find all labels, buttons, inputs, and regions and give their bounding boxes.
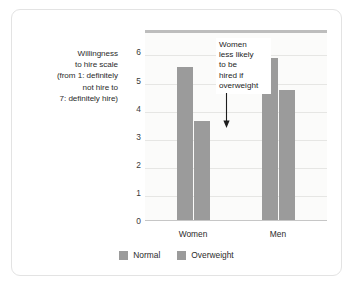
bar-women-normal xyxy=(177,67,193,221)
y-axis-tick-label: 6 xyxy=(132,47,141,57)
annotation-line-3: to be xyxy=(219,60,269,70)
annotation-line-5: overweight xyxy=(219,81,269,91)
legend-label: Normal xyxy=(133,250,160,260)
gridline xyxy=(145,196,327,197)
bar-women-overweight xyxy=(194,121,210,221)
y-axis-label-line-2: to hire scale xyxy=(22,59,118,70)
annotation-line-1: Women xyxy=(219,40,269,50)
legend-swatch-icon xyxy=(119,251,128,260)
legend-swatch-icon xyxy=(177,251,186,260)
plot-area: Women less likely to be hired if overwei… xyxy=(145,30,327,221)
annotation-line-2: less likely xyxy=(219,50,269,60)
gridline xyxy=(145,140,327,141)
y-axis-label: Willingness to hire scale (from 1: defin… xyxy=(22,48,118,104)
annotation-line-4: hired if xyxy=(219,71,269,81)
gridline xyxy=(145,112,327,113)
bar-men-overweight xyxy=(279,90,295,221)
y-axis-tick-label: 1 xyxy=(132,188,141,198)
legend-label: Overweight xyxy=(191,250,233,260)
down-arrow-icon xyxy=(222,93,231,129)
y-axis-tick-label: 4 xyxy=(132,104,141,114)
x-axis-tick-label: Men xyxy=(270,229,286,239)
y-axis-label-line-1: Willingness xyxy=(22,48,118,59)
chart-card: Willingness to hire scale (from 1: defin… xyxy=(11,9,342,276)
y-axis-tick-label: 2 xyxy=(132,160,141,170)
annotation-callout: Women less likely to be hired if overwei… xyxy=(216,38,271,94)
y-axis-tick-label: 0 xyxy=(132,216,141,226)
legend-item[interactable]: Normal xyxy=(119,250,160,260)
x-axis-tick-label: Women xyxy=(179,229,208,239)
y-axis-tick-label: 3 xyxy=(132,132,141,142)
y-axis-label-line-3: (from 1: definitely xyxy=(22,70,118,81)
y-axis-tick-label: 5 xyxy=(132,76,141,86)
y-axis-label-line-5: 7: definitely hire) xyxy=(22,93,118,104)
x-axis-baseline xyxy=(145,220,327,222)
plot-wrapper: Women less likely to be hired if overwei… xyxy=(132,30,327,226)
chart-legend: NormalOverweight xyxy=(12,250,341,260)
legend-item[interactable]: Overweight xyxy=(177,250,233,260)
gridline xyxy=(145,168,327,169)
y-axis-label-line-4: not hire to xyxy=(22,82,118,93)
